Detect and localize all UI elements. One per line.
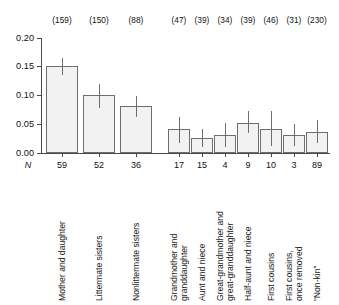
- n-row-key-label: N: [20, 160, 36, 170]
- x-category-label-6: Half-aunt and niece: [244, 226, 254, 301]
- sample-size-top-0: (159): [42, 15, 82, 25]
- error-bar-7: [271, 111, 272, 146]
- x-category-label-1: Littermate sisters: [95, 236, 105, 301]
- x-category-label-0: Mother and daughter: [58, 221, 68, 301]
- x-tick-8: [294, 154, 295, 157]
- y-tick-0.00: [37, 153, 41, 154]
- x-tick-6: [248, 154, 249, 157]
- y-tick-label-1: 0.15: [0, 61, 34, 71]
- y-tick-0.05: [37, 124, 41, 125]
- bar-0: [46, 66, 78, 153]
- sample-size-top-2: (88): [116, 15, 156, 25]
- x-tick-4: [202, 154, 203, 157]
- x-category-label-9: “Non-kin”: [313, 266, 323, 301]
- x-category-label-1-line-0: Littermate sisters: [95, 236, 105, 301]
- error-bar-8: [294, 124, 295, 146]
- x-category-label-6-line-0: Half-aunt and niece: [244, 226, 254, 301]
- error-bar-3: [179, 117, 180, 143]
- y-tick-label-3: 0.05: [0, 119, 34, 129]
- x-tick-0: [62, 154, 63, 157]
- x-category-label-3: Grandmother andgranddaughter: [170, 234, 189, 301]
- x-category-label-3-line-1: granddaughter: [180, 234, 190, 301]
- error-bar-0: [62, 58, 63, 75]
- x-category-label-4: Aunt and niece: [198, 244, 208, 301]
- x-category-label-4-line-0: Aunt and niece: [198, 244, 208, 301]
- figure-bar-chart-relatedness: 0.20 0.15 0.10 0.05 0.00 (159)(150)(88)(…: [0, 0, 339, 305]
- y-tick-label-0: 0.20: [0, 33, 34, 43]
- x-tick-5: [225, 154, 226, 157]
- x-category-label-2: Nonlittermate sisters: [132, 223, 142, 301]
- x-category-label-2-line-0: Nonlittermate sisters: [132, 223, 142, 301]
- error-bar-2: [136, 96, 137, 117]
- x-tick-3: [179, 154, 180, 157]
- sample-size-top-9: (230): [297, 15, 337, 25]
- x-category-label-5-line-1: great-granddaughter: [226, 211, 236, 301]
- y-tick-0.20: [37, 38, 41, 39]
- x-tick-2: [136, 154, 137, 157]
- y-tick-0.10: [37, 95, 41, 96]
- n-dyads-2: 36: [121, 160, 151, 170]
- x-category-label-9-line-0: “Non-kin”: [313, 266, 323, 301]
- y-tick-0.15: [37, 66, 41, 67]
- error-bar-6: [248, 111, 249, 133]
- x-category-label-8: First cousins,once removed: [285, 247, 304, 301]
- error-bar-1: [99, 84, 100, 108]
- sample-size-top-1: (150): [79, 15, 119, 25]
- x-category-label-8-line-1: once removed: [295, 247, 305, 301]
- plot-area: 0.20 0.15 0.10 0.05 0.00 (159)(150)(88)(…: [0, 0, 339, 305]
- x-category-label-0-line-0: Mother and daughter: [58, 221, 68, 301]
- error-bar-5: [225, 123, 226, 147]
- y-tick-label-4: 0.00: [0, 148, 34, 158]
- error-bar-4: [202, 129, 203, 146]
- x-category-label-7-line-0: First cousins: [267, 253, 277, 301]
- x-axis-line: [41, 153, 330, 154]
- x-category-label-5: Great-grandmother andgreat-granddaughter: [216, 211, 235, 301]
- n-dyads-9: 89: [302, 160, 332, 170]
- y-axis-line: [41, 38, 42, 153]
- x-tick-9: [317, 154, 318, 157]
- y-tick-label-2: 0.10: [0, 90, 34, 100]
- n-dyads-0: 59: [47, 160, 77, 170]
- x-tick-1: [99, 154, 100, 157]
- x-category-label-7: First cousins: [267, 253, 277, 301]
- error-bar-9: [317, 120, 318, 144]
- n-dyads-1: 52: [84, 160, 114, 170]
- x-tick-7: [271, 154, 272, 157]
